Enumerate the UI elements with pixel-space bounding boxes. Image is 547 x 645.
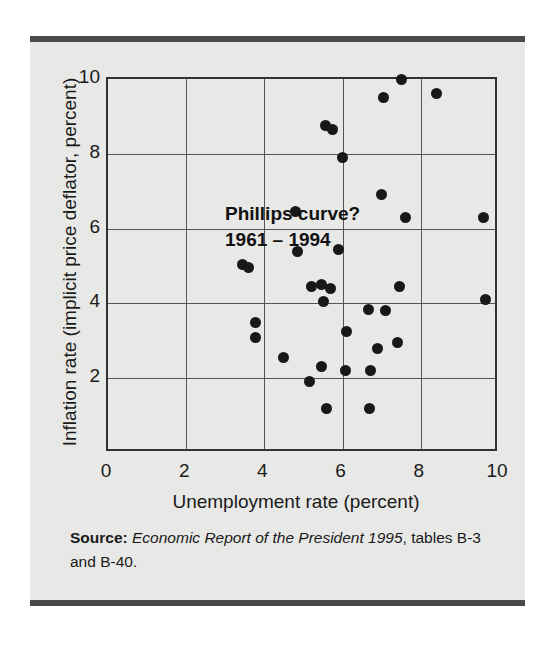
y-axis-ticks: 246810 — [60, 77, 100, 451]
scatter-point — [316, 361, 327, 372]
x-axis-label: Unemployment rate (percent) — [76, 491, 516, 513]
scatter-point — [376, 189, 387, 200]
scatter-point — [372, 343, 383, 354]
scatter-point — [341, 326, 352, 337]
x-tick-label: 8 — [399, 460, 439, 482]
gridline-vertical — [421, 79, 422, 449]
scatter-point — [380, 305, 391, 316]
scatter-point — [340, 365, 351, 376]
bottom-rule — [30, 600, 525, 606]
y-tick-label: 8 — [66, 141, 100, 163]
top-rule — [30, 36, 525, 42]
source-title: Economic Report of the President 1995 — [132, 529, 403, 546]
scatter-point — [337, 152, 348, 163]
gridline-horizontal — [108, 154, 495, 155]
chart-annotation: Phillips curve? 1961 – 1994 — [225, 201, 360, 252]
x-tick-label: 6 — [321, 460, 361, 482]
x-tick-label: 0 — [86, 460, 126, 482]
x-axis-ticks: 0246810 — [106, 460, 497, 486]
scatter-point — [365, 365, 376, 376]
gridline-horizontal — [108, 378, 495, 379]
plot-area: Phillips curve? 1961 – 1994 — [106, 77, 497, 451]
x-tick-label: 2 — [164, 460, 204, 482]
scatter-point — [364, 403, 375, 414]
scatter-point — [250, 317, 261, 328]
y-tick-label: 4 — [66, 290, 100, 312]
gridline-vertical — [186, 79, 187, 449]
x-tick-label: 10 — [477, 460, 517, 482]
scatter-point — [363, 304, 374, 315]
scatter-point — [321, 403, 332, 414]
scatter-point — [325, 283, 336, 294]
source-label: Source: — [70, 529, 128, 546]
scatter-point — [394, 281, 405, 292]
scatter-point — [250, 332, 261, 343]
annotation-line-1: Phillips curve? — [225, 201, 360, 227]
scatter-point — [243, 262, 254, 273]
gridline-horizontal — [108, 303, 495, 304]
scatter-point — [327, 124, 338, 135]
scatter-point — [378, 92, 389, 103]
scatter-point — [400, 212, 411, 223]
y-tick-label: 6 — [66, 216, 100, 238]
scatter-point — [478, 212, 489, 223]
gridline-vertical — [264, 79, 265, 449]
source-note: Source: Economic Report of the President… — [70, 526, 500, 574]
scatter-point — [480, 294, 491, 305]
y-tick-label: 10 — [66, 66, 100, 88]
scatter-point — [392, 337, 403, 348]
scatter-point — [431, 88, 442, 99]
annotation-line-2: 1961 – 1994 — [225, 227, 360, 253]
scatter-point — [318, 296, 329, 307]
figure-panel: Inflation rate (implicit price deflator,… — [30, 36, 525, 606]
scatter-point — [278, 352, 289, 363]
scatter-point — [304, 376, 315, 387]
y-tick-label: 2 — [66, 365, 100, 387]
scatter-point — [396, 74, 407, 85]
x-tick-label: 4 — [242, 460, 282, 482]
gridline-vertical — [343, 79, 344, 449]
